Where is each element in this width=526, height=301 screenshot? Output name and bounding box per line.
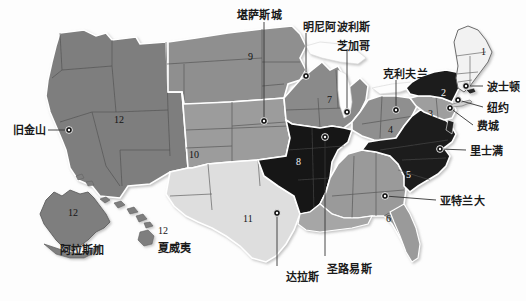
city-kansas-city: 堪萨斯城	[237, 10, 282, 21]
city-boston: 波士顿	[487, 82, 521, 93]
district-11: 11	[243, 214, 253, 224]
district-2: 2	[441, 88, 446, 98]
district-12-alaska: 12	[68, 208, 78, 218]
district-7: 7	[327, 95, 332, 105]
city-dallas: 达拉斯	[286, 272, 320, 283]
district-1: 1	[481, 47, 486, 57]
district-6: 6	[386, 214, 391, 224]
district-8: 8	[296, 157, 301, 167]
city-boston-marker-center	[465, 85, 467, 87]
place-alaska: 阿拉斯加	[60, 245, 104, 256]
city-philadelphia: 费城	[477, 121, 499, 132]
city-san-francisco-marker-center	[68, 129, 70, 131]
city-new-york: 纽约	[487, 103, 509, 114]
district-12-hawaii: 12	[158, 226, 168, 236]
city-atlanta-marker-center	[384, 195, 386, 197]
city-minneapolis: 明尼阿波利斯	[303, 22, 370, 33]
city-chicago-marker-center	[346, 111, 348, 113]
city-philadelphia-marker-center	[449, 107, 451, 109]
city-dallas-marker-center	[276, 212, 278, 214]
city-minneapolis-marker-center	[305, 75, 307, 77]
city-cleveland-marker-center	[395, 109, 397, 111]
district-9: 9	[248, 52, 253, 62]
city-san-francisco: 旧金山	[13, 125, 47, 136]
place-hawaii: 夏威夷	[158, 243, 191, 254]
district-10: 10	[189, 150, 199, 160]
city-st-louis-marker-center	[324, 136, 326, 138]
city-kansas-city-marker-center	[263, 120, 265, 122]
city-richmond-marker-center	[439, 148, 441, 150]
city-st-louis: 圣路易斯	[327, 264, 372, 275]
city-atlanta: 亚特兰大	[440, 196, 485, 207]
district-3: 3	[428, 109, 433, 119]
us-federal-reserve-district-map: 1234567891011121212 堪萨斯城明尼阿波利斯芝加哥克利夫兰波士顿…	[0, 0, 526, 301]
district-12-west: 12	[114, 115, 124, 125]
district-5: 5	[406, 170, 411, 180]
city-cleveland: 克利夫兰	[383, 69, 428, 80]
district-4: 4	[388, 125, 393, 135]
city-new-york-marker-center	[457, 99, 459, 101]
city-chicago: 芝加哥	[337, 41, 371, 52]
city-richmond: 里士满	[470, 146, 504, 157]
